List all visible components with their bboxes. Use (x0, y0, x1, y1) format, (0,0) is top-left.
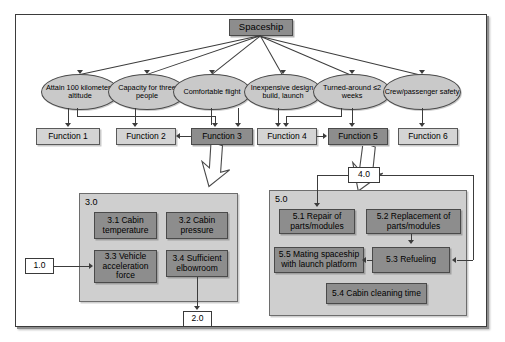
arrowhead-f1-top (65, 123, 71, 127)
line-r3-to-f3 (211, 108, 212, 125)
requirement-safety[interactable]: Crew/passenger safety (383, 74, 461, 110)
line-r1-branch-down (77, 108, 78, 116)
function-1[interactable]: Function 1 (36, 128, 100, 145)
subfunction-3-4[interactable]: 3.4 Sufficient elbowroom (166, 250, 228, 277)
arrowhead-2-0-top (194, 306, 200, 310)
node-spaceship[interactable]: Spaceship (229, 19, 293, 36)
requirement-inexpensive-label: Inexpensive design, build, launch (245, 84, 321, 100)
arrowhead-f5-left (323, 133, 327, 139)
function-2[interactable]: Function 2 (116, 128, 176, 145)
arrowhead-5-3-right (452, 257, 456, 263)
function-3-label: Function 3 (202, 132, 242, 142)
line-r5-branch-across (286, 116, 342, 117)
subfunction-3-3[interactable]: 3.3 Vehicle acceleration force (94, 250, 157, 283)
requirement-safety-label: Crew/passenger safety (385, 88, 460, 96)
function-4-label: Function 4 (267, 132, 307, 142)
subfunction-5-3[interactable]: 5.3 Refueling (372, 247, 450, 273)
node-spaceship-label: Spaceship (239, 22, 283, 33)
subfunction-3-1-label: 3.1 Cabin temperature (95, 216, 156, 235)
arrowhead-3-3-left (89, 263, 93, 269)
arrowhead-5-3-top (408, 240, 414, 244)
line-5-3-to-5-5 (367, 260, 373, 261)
function-2-label: Function 2 (126, 132, 166, 142)
subfunction-5-5[interactable]: 5.5 Mating spaceship with launch platfor… (274, 247, 364, 273)
function-6[interactable]: Function 6 (398, 128, 458, 145)
arrowhead-f6-top (419, 123, 425, 127)
subfunction-5-1-label: 5.1 Repair of parts/modules (280, 212, 354, 231)
subfunction-5-2[interactable]: 5.2 Replacement of parts/modules (366, 209, 461, 234)
group-3-0 (79, 193, 238, 302)
line-4-0-right-down (473, 175, 474, 260)
subfunction-3-4-label: 3.4 Sufficient elbowroom (167, 254, 227, 273)
arrowhead-f2-top (132, 123, 138, 127)
arrowhead-f5-top (349, 123, 355, 127)
arrowhead-f3-left-top (212, 123, 218, 127)
connector-4-0-label: 4.0 (358, 170, 370, 180)
subfunction-3-2[interactable]: 3.2 Cabin pressure (166, 212, 228, 239)
subfunction-5-2-label: 5.2 Replacement of parts/modules (367, 212, 460, 231)
group-3-0-label: 3.0 (85, 197, 98, 207)
diagram-frame: Spaceship Attain 100 kilometers altitude… (15, 14, 487, 327)
line-4-0-into-5-3 (457, 260, 473, 261)
line-4-0-right-out (380, 175, 473, 176)
function-6-label: Function 6 (408, 132, 448, 142)
subfunction-3-1[interactable]: 3.1 Cabin temperature (94, 212, 157, 239)
function-5[interactable]: Function 5 (328, 128, 388, 145)
subfunction-5-4[interactable]: 5.4 Cabin cleaning time (326, 283, 427, 304)
requirement-comfortable-flight-label: Comfortable flight (183, 88, 240, 96)
arrowhead-f2-right (176, 133, 180, 139)
connector-2-0-label: 2.0 (192, 314, 204, 324)
arrowhead-f3-right-top (235, 123, 241, 127)
arrowhead-5-5-right (362, 257, 366, 263)
function-4[interactable]: Function 4 (257, 128, 317, 145)
subfunction-5-3-label: 5.3 Refueling (386, 255, 436, 265)
requirement-turnaround-label: Turned-around ≤2 weeks (314, 84, 390, 100)
connector-1-0-label: 1.0 (34, 261, 46, 271)
connector-2-0[interactable]: 2.0 (183, 311, 212, 327)
line-1-0-to-3-3 (54, 266, 90, 267)
arrowhead-f4-top (275, 123, 281, 127)
function-1-label: Function 1 (48, 132, 88, 142)
line-4-0-left-out (317, 175, 348, 176)
requirement-comfortable-flight[interactable]: Comfortable flight (173, 74, 251, 110)
subfunction-5-4-label: 5.4 Cabin cleaning time (332, 289, 421, 299)
line-f3-to-f2 (180, 136, 191, 137)
requirement-attain-altitude-label: Attain 100 kilometers altitude (42, 84, 118, 100)
arrowhead-5-1-top (314, 203, 320, 207)
line-r1-branch-across (77, 116, 215, 117)
block-arrow-function3-to-group3 (197, 145, 237, 189)
connector-1-0[interactable]: 1.0 (25, 258, 54, 274)
diagram-canvas: Spaceship Attain 100 kilometers altitude… (0, 0, 505, 342)
line-4-0-left-down (317, 175, 318, 205)
arrowhead-f4-second-top (283, 123, 289, 127)
connector-4-0[interactable]: 4.0 (348, 167, 380, 183)
subfunction-5-5-label: 5.5 Mating spaceship with launch platfor… (275, 250, 363, 269)
subfunction-5-1[interactable]: 5.1 Repair of parts/modules (279, 209, 355, 234)
subfunction-3-3-label: 3.3 Vehicle acceleration force (95, 252, 156, 281)
line-r5-branch-down (341, 108, 342, 116)
subfunction-3-2-label: 3.2 Cabin pressure (167, 216, 227, 235)
function-3[interactable]: Function 3 (191, 128, 253, 145)
line-3-4-to-2-0 (197, 277, 198, 308)
group-5-0-label: 5.0 (275, 194, 288, 204)
requirement-turnaround[interactable]: Turned-around ≤2 weeks (313, 74, 391, 110)
requirement-inexpensive[interactable]: Inexpensive design, build, launch (244, 74, 322, 110)
function-5-label: Function 5 (338, 132, 378, 142)
